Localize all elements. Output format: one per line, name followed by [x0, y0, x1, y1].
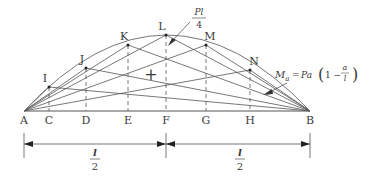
diagram-canvas: IJKLMN + Pl 4 Ma = Pa ( 1 − a l ): [0, 0, 371, 180]
apex-dot: [249, 69, 252, 72]
dim-left-denominator: 2: [92, 161, 98, 172]
apex-label: K: [120, 30, 129, 43]
dim-left-numerator: l: [93, 147, 97, 158]
section-label: E: [124, 114, 132, 127]
formula-m: M: [274, 69, 286, 80]
apex-dot: [85, 67, 88, 70]
formula-arrow-icon: [263, 89, 273, 95]
section-label: D: [82, 114, 91, 127]
apex-label: L: [158, 20, 166, 33]
dim-arrow-left-start-icon: [24, 141, 33, 147]
span-dimensions: l 2 l 2: [24, 133, 310, 172]
formula-lhs: Ma: [274, 69, 289, 83]
apex-dot: [127, 44, 130, 47]
apex-dot: [165, 34, 168, 37]
peak-denominator: 4: [196, 20, 202, 30]
moment-envelope-parabola: [24, 35, 310, 111]
apex-label: I: [43, 72, 47, 85]
support-label: A: [19, 114, 29, 127]
section-label: F: [162, 114, 170, 127]
formula-frac-den: l: [344, 74, 347, 83]
dim-right-numerator: l: [238, 147, 242, 158]
beam-moment-diagram: IJKLMN + Pl 4 Ma = Pa ( 1 − a l ): [0, 0, 371, 180]
formula-equals: =: [292, 70, 300, 80]
apex-label: J: [79, 53, 84, 66]
dim-arrow-left-end-icon: [157, 141, 166, 147]
formula-paren-open: (: [318, 65, 324, 84]
apex-dot: [205, 44, 208, 47]
section-label: C: [45, 114, 53, 127]
influence-line-left: [24, 45, 128, 111]
apex-label: M: [204, 30, 215, 43]
influence-line-left: [24, 45, 206, 111]
apex-dot: [48, 86, 51, 89]
peak-value-annotation: Pl 4: [168, 7, 206, 46]
section-label: H: [245, 114, 255, 127]
support-label: B: [306, 114, 314, 127]
formula-subscript: a: [285, 75, 289, 83]
formula-paren-close: ): [352, 65, 358, 84]
peak-leader-line: [172, 22, 190, 41]
formula-pa: Pa: [300, 70, 312, 80]
section-label: G: [202, 114, 211, 127]
formula-one-minus: 1 −: [325, 70, 341, 80]
peak-numerator: Pl: [194, 7, 204, 17]
dim-right-denominator: 2: [237, 161, 243, 172]
dim-arrow-right-start-icon: [166, 141, 175, 147]
apex-label: N: [249, 55, 259, 68]
formula-frac-num: a: [343, 63, 348, 72]
dim-arrow-right-end-icon: [301, 141, 310, 147]
positive-sign: +: [144, 65, 157, 84]
section-labels: CDEFGHAB: [19, 114, 314, 127]
influence-line-left: [24, 70, 250, 111]
